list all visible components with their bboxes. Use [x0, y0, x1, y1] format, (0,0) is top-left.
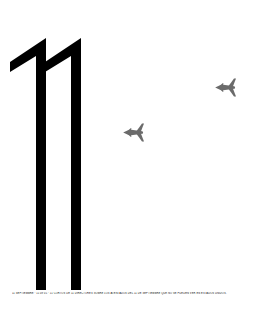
- poster-caption: 11 SEPTIEMBRE · 11'09"01 · 11 CORTOS DE …: [12, 292, 244, 296]
- airplane-silhouette-upper-icon: [213, 77, 237, 98]
- digit-one-first: [10, 38, 46, 290]
- eleven-numeral-graphic: [0, 0, 254, 314]
- digit-one-second: [45, 38, 81, 290]
- airplane-silhouette-lower-icon: [121, 122, 145, 143]
- poster-canvas: 11 SEPTIEMBRE · 11'09"01 · 11 CORTOS DE …: [0, 0, 254, 314]
